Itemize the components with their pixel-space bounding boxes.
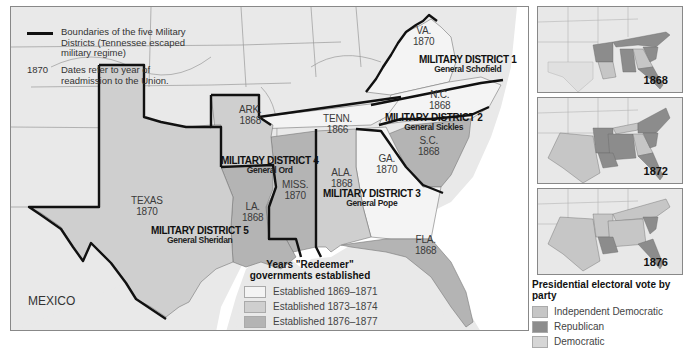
- state-label-alabama: ALA.1868: [331, 167, 352, 189]
- swatch-democratic: [532, 336, 548, 348]
- inset-map-1868: 1868: [537, 6, 683, 93]
- map-legend: Boundaries of the five Military District…: [27, 27, 192, 92]
- inset-map-1876: 1876: [537, 188, 683, 275]
- boundary-legend-label: Boundaries of the five Military District…: [61, 27, 192, 59]
- redeemer-item-label: Established 1873–1874: [273, 301, 378, 312]
- redeemer-legend: Years "Redeemer" governments established…: [240, 259, 380, 329]
- presidential-legend-item: Independent Democratic: [532, 304, 685, 319]
- inset-year-1872: 1872: [644, 165, 668, 177]
- redeemer-item-label: Established 1876–1877: [273, 316, 378, 327]
- state-label-texas: TEXAS1870: [131, 195, 163, 217]
- legend-item-label: Democratic: [554, 336, 605, 347]
- redeemer-legend-item: Established 1869–1871: [240, 284, 380, 299]
- legend-item-label: Independent Democratic: [554, 306, 663, 317]
- swatch-1873-1874: [244, 301, 266, 313]
- boundary-line-swatch: [27, 32, 53, 35]
- district-label-5: MILITARY DISTRICT 5General Sheridan: [151, 225, 248, 245]
- district-label-2: MILITARY DISTRICT 2General Sickles: [385, 112, 482, 132]
- state-label-virginia: VA.1870: [413, 25, 434, 47]
- state-label-mississippi: MISS.1870: [282, 179, 308, 201]
- swatch-independent-democratic: [532, 306, 548, 318]
- presidential-legend-title: Presidential electoral vote by party: [532, 279, 685, 301]
- state-label-north-carolina: N.C.1868: [429, 89, 450, 111]
- state-label-south-carolina: S.C.1868: [418, 135, 439, 157]
- inset-map-1872: 1872: [537, 97, 683, 184]
- presidential-vote-legend: Presidential electoral vote by party Ind…: [532, 279, 685, 349]
- district-label-3: MILITARY DISTRICT 3General Pope: [323, 188, 420, 208]
- legend-item-label: Republican: [554, 321, 604, 332]
- state-label-louisiana: LA.1868: [242, 201, 263, 223]
- district-label-1: MILITARY DISTRICT 1General Schofield: [419, 54, 516, 74]
- district-label-4: MILITARY DISTRICT 4General Ord: [221, 155, 318, 175]
- state-label-florida: FLA.1868: [415, 234, 436, 256]
- inset-year-1868: 1868: [644, 74, 668, 86]
- swatch-1876-1877: [244, 316, 266, 328]
- presidential-legend-item: Democratic: [532, 334, 685, 349]
- redeemer-item-label: Established 1869–1871: [273, 286, 378, 297]
- date-legend-label: Dates refer to year of readmission to th…: [61, 65, 192, 86]
- swatch-1869-1871: [244, 286, 266, 298]
- date-sample: 1870: [27, 65, 55, 86]
- presidential-legend-item: Republican: [532, 319, 685, 334]
- inset-year-1876: 1876: [644, 256, 668, 268]
- state-label-tennessee: TENN.1866: [323, 113, 352, 135]
- state-label-georgia: GA.1870: [376, 153, 397, 175]
- redeemer-legend-item: Established 1873–1874: [240, 299, 380, 314]
- swatch-republican: [532, 321, 548, 333]
- country-label-mexico: MEXICO: [28, 294, 75, 308]
- redeemer-legend-item: Established 1876–1877: [240, 314, 380, 329]
- state-label-arkansas: ARK.1868: [239, 104, 262, 126]
- redeemer-legend-title: Years "Redeemer" governments established: [240, 259, 380, 281]
